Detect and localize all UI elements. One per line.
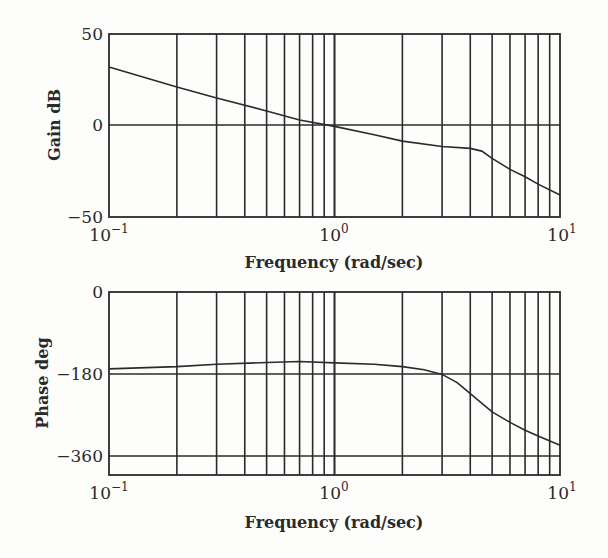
phase-xtick-0p1: 10−1 (89, 480, 128, 503)
gain-xlabel: Frequency (rad/sec) (245, 253, 424, 272)
phase-xtick-1: 100 (319, 480, 348, 503)
gain-xtick-10: 101 (547, 222, 576, 245)
gain-ytick-0: 0 (92, 115, 103, 135)
bode-plot-figure: 50 0 −50 Gain dB 10−1 100 101 Frequency … (0, 0, 608, 558)
phase-ytick-neg180: −180 (56, 364, 103, 384)
phase-xtick-10: 101 (547, 480, 576, 503)
gain-ytick-50: 50 (81, 24, 103, 44)
gain-plot: 50 0 −50 Gain dB 10−1 100 101 Frequency … (45, 24, 577, 272)
gain-xtick-0p1: 10−1 (89, 222, 128, 245)
phase-ylabel: Phase deg (33, 337, 52, 428)
phase-ytick-0: 0 (92, 282, 103, 302)
phase-vertical-gridlines (177, 292, 550, 475)
gain-xtick-1: 100 (319, 222, 348, 245)
phase-ytick-neg360: −360 (56, 446, 103, 466)
gain-ytick-neg50: −50 (67, 207, 103, 227)
gain-ylabel: Gain dB (45, 89, 64, 161)
phase-xlabel: Frequency (rad/sec) (245, 513, 424, 532)
phase-plot: 0 −180 −360 Phase deg 10−1 100 101 Frequ… (33, 282, 577, 532)
